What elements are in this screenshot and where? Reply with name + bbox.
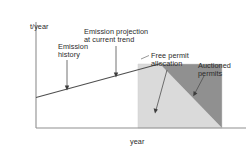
annotation-auctioned-permits: Auctioned permits [198, 62, 231, 79]
y-axis-label: t/year [30, 23, 49, 31]
x-axis-label: year [130, 138, 144, 146]
annotation-emission-history: Emission history [58, 43, 88, 60]
annotation-free-permit-allocation: Free permit allocation [151, 52, 189, 69]
annotation-emission-projection: Emission projection at current trend [84, 28, 148, 45]
free-permit-label-tick [141, 56, 149, 60]
figure-canvas: t/year year Emission history Emission pr… [0, 0, 251, 157]
